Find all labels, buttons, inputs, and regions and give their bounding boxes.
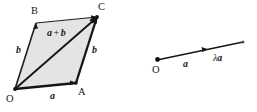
ray-label-scaled-vector: a [217, 52, 222, 63]
ray-origin-dot [155, 57, 160, 62]
edge-label-b-right: b [92, 45, 97, 55]
ray-label-lambda-a: λa [213, 53, 222, 63]
diagonal-label-term-b: b [61, 27, 66, 38]
vertex-dot-A [74, 81, 77, 84]
ray-arrowhead-icon [202, 47, 209, 52]
vertex-label-A: A [78, 87, 86, 98]
vertex-label-B: B [31, 6, 38, 17]
ray-endpoint-dot [242, 41, 245, 44]
diagonal-label-a-plus-b: a+b [47, 28, 66, 38]
vertex-dot-C [95, 15, 99, 19]
ray-label-a: a [183, 59, 188, 69]
ray-line [157, 42, 243, 60]
ray-origin-label-O: O [152, 65, 160, 76]
vertex-dot-O [13, 87, 17, 91]
edge-label-a-bottom: a [50, 91, 55, 101]
edge-label-b-left: b [16, 45, 21, 55]
vertex-label-C: C [98, 2, 105, 13]
vertex-label-O: O [6, 94, 14, 105]
diagonal-label-operator: + [52, 27, 61, 38]
vector-diagram-figure: B C O A b b a a+b O a λa [0, 0, 257, 112]
